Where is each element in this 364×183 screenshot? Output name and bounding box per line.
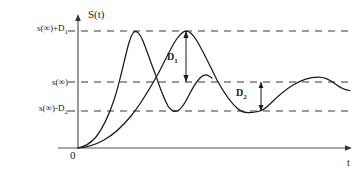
gridline-label-upper-base: s(∞)+D	[37, 23, 65, 33]
d2-arrowhead-top	[259, 82, 264, 88]
d1-arrowhead-bottom	[183, 75, 188, 82]
y-axis-arrowhead	[75, 14, 81, 21]
annotation-d2-arrow	[259, 82, 264, 111]
gridline-label-lower-subscript: 2	[65, 108, 69, 116]
gridline-label-lower: s(∞)-D2	[6, 104, 68, 116]
annotation-label-d2-subscript: 2	[243, 93, 247, 101]
x-axis-arrowhead	[345, 145, 352, 150]
gridline-label-middle-base: s(∞)	[52, 77, 68, 87]
gridline-label-upper: s(∞)+D1	[6, 24, 68, 36]
origin-label: 0	[70, 150, 76, 161]
gridline-label-middle: s(∞)	[6, 78, 68, 90]
response-curve-fast	[78, 31, 212, 148]
gridlines	[68, 31, 354, 111]
gridline-label-upper-subscript: 1	[65, 28, 69, 36]
annotation-label-d1-subscript: 1	[174, 57, 178, 65]
y-axis-label: S(t)	[88, 9, 105, 20]
gridline-label-lower-base: s(∞)-D	[39, 103, 64, 113]
annotation-label-d2: D2	[236, 88, 247, 101]
step-response-figure: s(∞)+D1 s(∞) s(∞)-D2 S(t) t 0 D1 D2	[0, 0, 364, 183]
response-curve-slow	[78, 31, 350, 148]
annotation-d1-arrow	[183, 31, 188, 82]
annotation-label-d1: D1	[167, 52, 178, 65]
x-axis-label: t	[347, 158, 350, 168]
